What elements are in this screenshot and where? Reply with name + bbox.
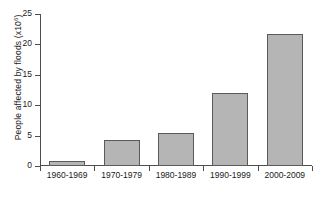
x-axis-tick: [312, 166, 313, 171]
bar-1980-1989: [158, 133, 194, 166]
y-axis-tick: 5: [35, 136, 40, 137]
y-axis-tick-label: 5: [27, 130, 32, 140]
bar-1960-1969: [49, 161, 85, 166]
y-axis-tick-label: 20: [23, 38, 32, 48]
bar-2000-2009: [267, 34, 303, 166]
x-axis-label-1960-1969: 1960-1969: [40, 170, 94, 180]
y-axis-tick: 25: [35, 14, 40, 15]
y-axis-tick-label: 10: [23, 99, 32, 109]
y-axis-line: [40, 14, 41, 166]
bar-1970-1979: [104, 140, 140, 166]
y-axis-tick: 20: [35, 44, 40, 45]
x-axis-label-1970-1979: 1970-1979: [94, 170, 148, 180]
y-axis-tick: 10: [35, 105, 40, 106]
plot-area: 0510152025: [40, 14, 312, 166]
bar-1990-1999: [212, 93, 248, 166]
y-axis-tick-label: 15: [23, 69, 32, 79]
x-axis-label-2000-2009: 2000-2009: [258, 170, 312, 180]
y-axis-tick-label: 25: [23, 8, 32, 18]
y-axis-tick: 15: [35, 75, 40, 76]
x-axis-label-1980-1989: 1980-1989: [149, 170, 203, 180]
y-axis-tick-label: 0: [27, 160, 32, 170]
flood-impact-bar-chart: People affected by floods (x106) 0510152…: [0, 0, 324, 204]
y-axis-title-exponent: 6: [13, 18, 19, 22]
x-axis-label-1990-1999: 1990-1999: [203, 170, 257, 180]
